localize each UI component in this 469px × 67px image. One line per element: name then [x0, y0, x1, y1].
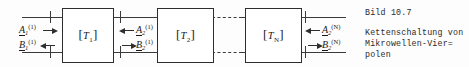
reference-plane-tick-out-bottom — [305, 46, 306, 58]
wave-arrow-A2-1-incident — [124, 30, 134, 31]
wave-label-A1-incident: A1(1) — [19, 24, 36, 37]
reference-plane-tick-mid-bottom — [120, 46, 121, 58]
top-line-seg-box1-right — [112, 17, 142, 18]
wave-label-B2-N-reflected: B2(N) — [322, 39, 340, 52]
wave-arrow-A1-incident — [43, 30, 53, 31]
figure-caption-line-2: Mikrowellen-Vier= — [365, 38, 453, 50]
two-port-box-T1: [T1] — [62, 8, 114, 63]
two-port-box-T2-label: [T2] — [176, 27, 195, 44]
wave-label-A2-N-incident: A2(N) — [322, 24, 340, 37]
wave-label-B1-reflected: B1(1) — [19, 39, 36, 52]
wave-label-A2-1-incident: A2(1) — [136, 24, 153, 37]
two-port-box-T2: [T2] — [157, 8, 214, 63]
bottom-line-dashed — [212, 52, 242, 53]
top-line-dashed — [212, 17, 242, 18]
wave-arrow-B1-reflected — [45, 45, 55, 46]
wave-label-B2-1-reflected: B2(1) — [136, 39, 153, 52]
figure-number: Bild 10.7 — [365, 7, 412, 19]
reference-plane-tick-in-bottom — [50, 46, 51, 58]
figure-caption-line-1: Kettenschaltung von — [365, 27, 463, 39]
reference-plane-tick-mid-top — [120, 11, 121, 23]
two-port-box-TN: [TN] — [245, 8, 302, 63]
figure-caption-line-3: polen — [365, 49, 391, 61]
wave-arrow-B2-N-reflected — [308, 45, 318, 46]
wave-arrow-A2-N-incident — [310, 30, 320, 31]
two-port-box-T1-label: [T1] — [78, 27, 97, 44]
reference-plane-tick-in-top — [50, 11, 51, 23]
reference-plane-tick-out-top — [305, 11, 306, 23]
figure-canvas: [T1] [T2] [TN] A1(1) B1(1) A2(1) B2(1) A… — [0, 0, 469, 67]
wave-arrow-B2-1-reflected — [122, 45, 132, 46]
two-port-box-TN-label: [TN] — [263, 27, 284, 44]
